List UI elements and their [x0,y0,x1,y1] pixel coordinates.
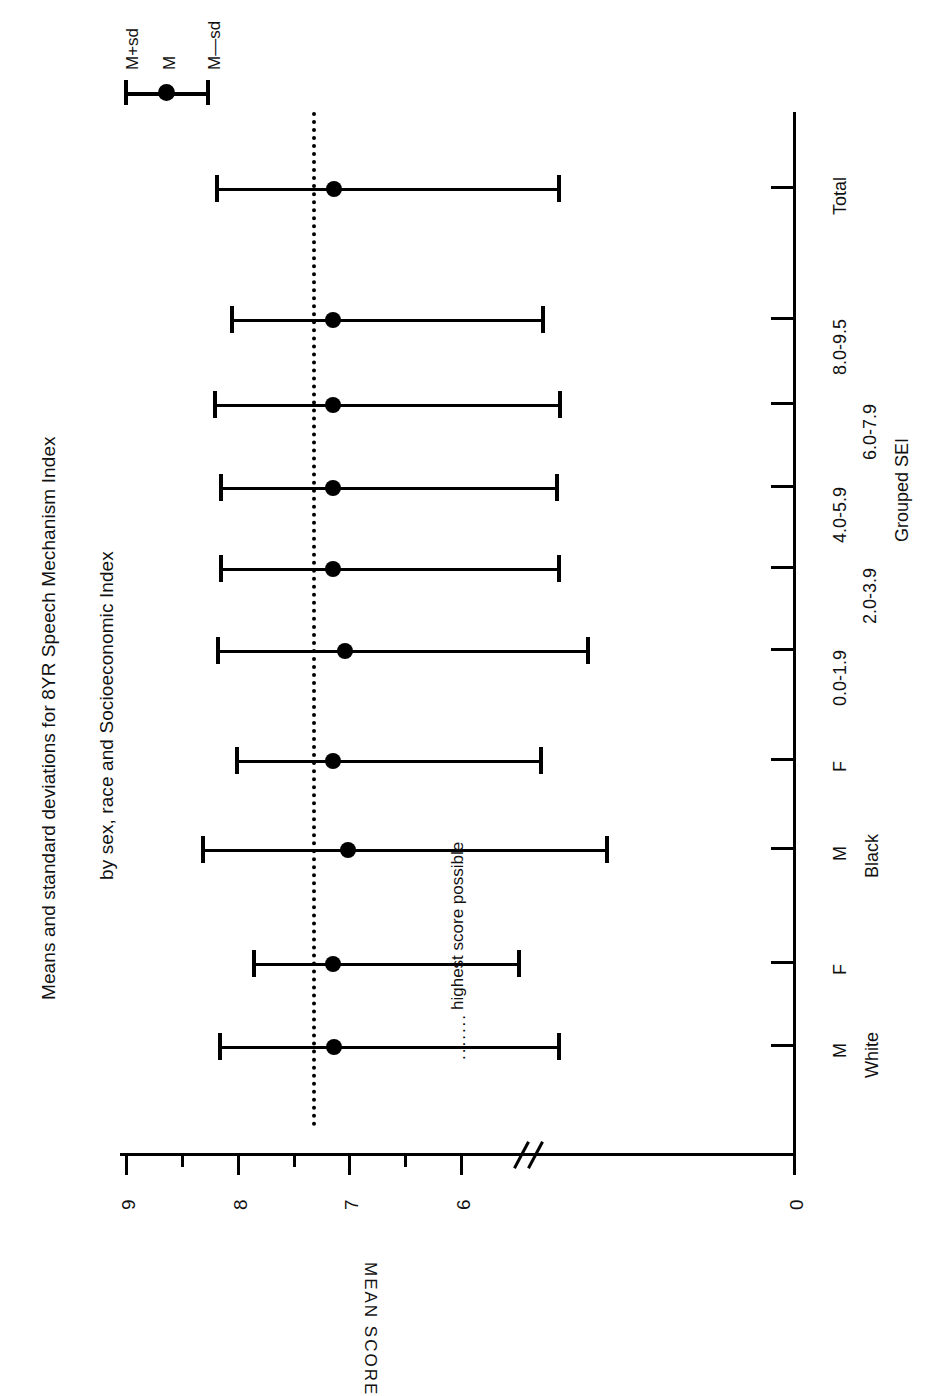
errorbar-cap-low-white-m [557,1033,561,1060]
errorbar-white-f [253,963,520,966]
errorbar-cap-high-sei-0 [216,637,220,664]
category-label-black-m: M [830,846,851,861]
value-tick-8 [237,1153,240,1175]
category-tick-white-f [771,961,793,964]
category-label-sei-6: 6.0-7.9 [860,404,881,460]
errorbar-cap-high-sei-4 [219,474,223,501]
errorbar-sei-0 [217,650,589,653]
reference-line-highest-score [312,112,316,1127]
mean-dot-sei-2 [325,561,341,577]
errorbar-cap-low-white-f [517,950,521,977]
category-tick-sei-8 [771,317,793,320]
value-tick-7 [348,1153,351,1175]
value-tick-label-6: 6 [453,1199,475,1210]
category-tick-white-m [771,1044,793,1047]
mean-dot-sei-4 [325,480,341,496]
errorbar-black-f [236,760,542,763]
category-tick-sei-6 [771,402,793,405]
errorbar-sei-4 [220,487,558,490]
errorbar-cap-high-sei-2 [219,555,223,582]
value-tick-label-0: 0 [786,1199,808,1210]
value-tick-minor-85 [181,1153,184,1167]
errorbar-cap-high-white-f [252,950,256,977]
mean-dot-black-m [340,842,356,858]
mean-dot-white-m [326,1039,342,1055]
category-tick-sei-2 [771,566,793,569]
category-tick-total [771,186,793,189]
errorbar-cap-low-sei-6 [558,391,562,418]
mean-dot-sei-0 [337,643,353,659]
value-tick-0 [793,1153,796,1175]
errorbar-cap-high-sei-6 [213,391,217,418]
category-axis-line [793,112,796,1156]
value-tick-9 [125,1153,128,1175]
errorbar-black-m [202,849,608,852]
category-tick-sei-4 [771,485,793,488]
category-tick-black-f [771,758,793,761]
errorbar-white-m [219,1046,560,1049]
annotation-highest-score: highest score possible [448,842,468,1010]
annotation-leader-dots: ....... [450,1013,470,1060]
errorbar-sei-8 [231,319,544,322]
errorbar-cap-low-black-m [605,836,609,863]
category-label-black-f: F [830,761,851,772]
category-label-sei-8: 8.0-9.5 [830,319,851,375]
errorbar-sei-2 [220,568,560,571]
mean-dot-total [326,181,342,197]
value-tick-label-8: 8 [230,1199,252,1210]
errorbar-cap-high-white-m [218,1033,222,1060]
value-axis-line [120,1153,796,1156]
category-label-white-f: F [830,964,851,975]
mean-dot-sei-8 [325,312,341,328]
mean-dot-white-f [325,956,341,972]
category-label-white-m: M [830,1043,851,1058]
value-tick-label-7: 7 [341,1199,363,1210]
category-label-sei-0: 0.0-1.9 [830,650,851,706]
group-label-white: White [862,1032,883,1078]
errorbar-cap-low-total [557,175,561,202]
group-label-black: Black [862,834,883,878]
value-tick-label-9: 9 [118,1199,140,1210]
value-tick-6 [460,1153,463,1175]
category-tick-black-m [771,847,793,850]
errorbar-sei-6 [214,404,561,407]
category-label-sei-4: 4.0-5.9 [830,487,851,543]
errorbar-cap-high-black-f [235,747,239,774]
value-tick-minor-75 [293,1153,296,1167]
errorbar-total [216,188,560,191]
category-axis-title: Grouped SEI [892,438,913,542]
value-axis-title: MEAN SCORE [360,1262,380,1396]
category-tick-sei-0 [771,648,793,651]
category-label-total: Total [830,177,851,215]
errorbar-cap-low-sei-4 [555,474,559,501]
category-label-sei-2: 2.0-3.9 [860,568,881,624]
mean-dot-sei-6 [325,397,341,413]
mean-dot-black-f [325,753,341,769]
errorbar-cap-low-sei-8 [541,306,545,333]
errorbar-cap-high-total [215,175,219,202]
errorbar-cap-low-sei-2 [557,555,561,582]
value-tick-minor-65 [404,1153,407,1167]
errorbar-cap-low-black-f [539,747,543,774]
errorbar-cap-high-black-m [201,836,205,863]
errorbar-cap-low-sei-0 [586,637,590,664]
errorbar-cap-high-sei-8 [230,306,234,333]
